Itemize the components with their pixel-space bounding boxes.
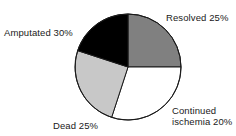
pie-label-amputated: Amputated 30%: [4, 27, 73, 38]
pie-label-resolved: Resolved 25%: [166, 12, 228, 23]
pie-chart-figure: Amputated 30% Resolved 25% Continued isc…: [0, 0, 236, 136]
pie-label-dead: Dead 25%: [53, 120, 98, 131]
pie-label-continued-ischemia-line1: Continued: [172, 105, 216, 116]
pie-label-continued-ischemia: Continued ischemia 20%: [172, 105, 234, 127]
pie-label-continued-ischemia-line2: ischemia 20%: [172, 116, 234, 127]
